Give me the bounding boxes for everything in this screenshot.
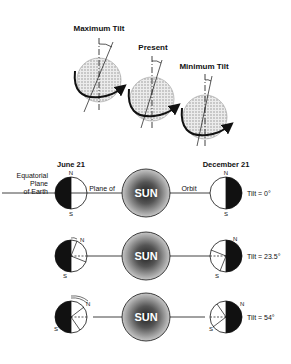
label-equatorial-2: Plane xyxy=(30,180,48,187)
earth-night-side xyxy=(226,177,242,209)
orbit-row-tilt-54: N S SUN N S Tilt = 54° xyxy=(54,293,275,341)
label-minimum-tilt: Minimum Tilt xyxy=(179,62,229,71)
label-north: N xyxy=(240,301,244,307)
label-south: S xyxy=(209,326,213,332)
globe-minimum-tilt: Minimum Tilt xyxy=(179,62,229,148)
globe-maximum-tilt: Maximum Tilt xyxy=(74,24,125,112)
label-north: N xyxy=(69,170,73,176)
label-equatorial-3: of Earth xyxy=(23,188,48,195)
label-sun: SUN xyxy=(134,187,157,199)
label-south: S xyxy=(215,273,219,279)
label-north: N xyxy=(224,170,228,176)
label-december-21: December 21 xyxy=(203,160,250,169)
label-maximum-tilt: Maximum Tilt xyxy=(74,24,125,33)
tilt-angle-arc xyxy=(205,80,211,81)
label-south: S xyxy=(69,211,73,217)
label-tilt-54: Tilt = 54° xyxy=(247,314,275,321)
label-equatorial-1: Equatorial xyxy=(16,172,48,180)
tilt-angle-arc xyxy=(152,61,161,63)
label-south: S xyxy=(63,273,67,279)
label-plane-of: Plane of xyxy=(89,185,115,192)
label-south: S xyxy=(224,211,228,217)
label-south: S xyxy=(54,326,58,332)
label-tilt-0: Tilt = 0° xyxy=(247,190,271,197)
label-orbit: Orbit xyxy=(181,185,196,192)
tilt-angle-arc xyxy=(99,44,112,47)
label-north: N xyxy=(80,237,84,243)
label-june-21: June 21 xyxy=(57,160,85,169)
label-north: N xyxy=(233,236,237,242)
earth-night-side xyxy=(55,177,71,209)
label-north: N xyxy=(86,301,90,307)
orbit-row-tilt-23-5: N S SUN N S Tilt = 23.5° xyxy=(55,232,281,280)
label-tilt-23-5: Tilt = 23.5° xyxy=(247,253,281,260)
diagram-canvas: Maximum Tilt Present Minimum Tilt June 2… xyxy=(0,0,291,364)
label-present: Present xyxy=(138,43,168,52)
globe-present: Present xyxy=(129,43,176,130)
orbit-row-tilt-0: June 21 December 21 Equatorial Plane of … xyxy=(2,160,271,217)
label-sun: SUN xyxy=(134,311,157,323)
label-sun: SUN xyxy=(134,250,157,262)
